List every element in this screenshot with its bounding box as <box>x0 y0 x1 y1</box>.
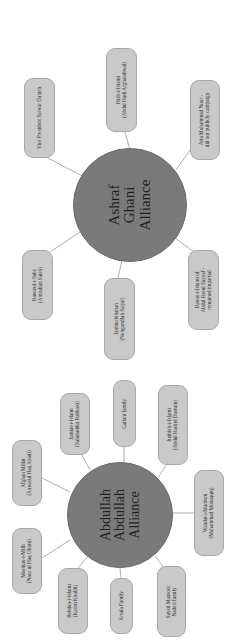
node-label: (Abdul Rashid Dostum) <box>173 400 179 450</box>
node-gailani-family: Gailani family <box>113 380 136 447</box>
hub-title-line: Abdullah <box>99 489 113 541</box>
node-label: (Abdul Hadi Arghandiwal) <box>122 62 128 118</box>
node-label: Arsala Family <box>119 591 125 621</box>
hub-title-line: Abdullah <box>113 489 127 541</box>
node-afghan-millat: Afghan Millat (Anwarul Haq Ahadi) <box>12 440 42 506</box>
node-rawand-i-sabz: Rawand-i-Sabz (Amrullah Saleh) <box>22 250 53 320</box>
node-hizb-i-islami: Hizb-i-Islami (Abdul Hadi Arghandiwal) <box>106 48 137 132</box>
node-label: Naderi family <box>172 585 178 617</box>
node-atta-noor: Atta Mohammad Noor - did not publicly ca… <box>190 80 220 160</box>
node-mushtak-i-milli: Mushtak-i-Milli (Noor ul Haq Olomi) <box>12 528 42 594</box>
node-wahdat-i-mardom: Wahdat-i-Mardom (Mohammad Mohaqqiq) <box>194 470 224 556</box>
node-label: Vice President Sarwar Danish <box>37 87 43 149</box>
node-dawat-i-islami: Dawat-i-Islami of Abdul Rasul Sayyaf - r… <box>188 250 219 330</box>
node-label: remained impartial <box>206 268 212 313</box>
node-jamiat-i-islami: Jamiat-i-Islami (Salahuddin Rabbani) <box>60 393 90 455</box>
hub-title-line: Ashraf <box>107 180 122 231</box>
node-naderi-family: Sayed Mansoor Naderi family <box>157 566 186 637</box>
node-jamhurikhahan: Jamhurikhahan (Nehgarullah Sarjar) <box>104 278 135 360</box>
hub-title-line: Alliance <box>127 489 141 541</box>
node-label: (Noor ul Haq Olomi) <box>27 539 33 583</box>
alliance-diagram: Ashraf Ghani Alliance Abdullah Abdullah … <box>0 0 229 641</box>
node-label: (Nehgarullah Sarjar) <box>120 298 126 341</box>
node-rebdan-i-islami: Rebdan-i-Islami (Karim Khalili) <box>58 568 88 634</box>
ashraf-ghani-alliance-hub: Ashraf Ghani Alliance <box>73 148 187 262</box>
abdullah-abdullah-alliance-hub: Abdullah Abdullah Alliance <box>67 462 173 568</box>
node-label: (Anwarul Haq Ahadi) <box>27 450 33 495</box>
node-label: (Amrullah Saleh) <box>38 267 44 303</box>
node-label: Gailani family <box>122 398 128 428</box>
hub-title-line: Ghani <box>122 180 137 231</box>
hub-title-line: Alliance <box>138 180 153 231</box>
node-label: (Karim Khalili) <box>73 584 79 618</box>
node-label: (Mohammad Mohaqqiq) <box>209 487 215 538</box>
node-arsala-family: Arsala Family <box>110 578 133 634</box>
node-sarwar-danish: Vice President Sarwar Danish <box>24 78 55 158</box>
node-label: (Salahuddin Rabbani) <box>75 401 81 446</box>
node-label: did not publicly campaign <box>205 93 211 147</box>
node-junbish-i-islami: Junbish-i-Islami (Abdul Rashid Dostum) <box>158 385 188 465</box>
